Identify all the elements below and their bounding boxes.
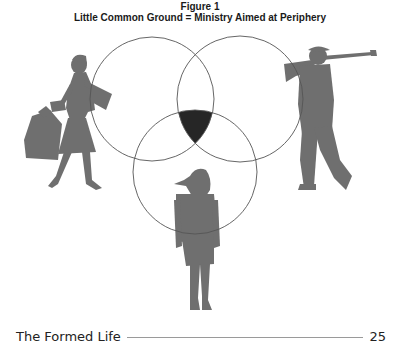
man-golfing-silhouette (284, 47, 377, 191)
venn-diagram (0, 0, 400, 362)
page-footer: The Formed Life 25 (16, 329, 386, 349)
footer-leader-line (127, 337, 364, 338)
woman-shopping-silhouette (24, 55, 112, 190)
girl-standing-silhouette (174, 169, 220, 310)
footer-title: The Formed Life (16, 329, 121, 344)
page-number: 25 (369, 329, 386, 344)
